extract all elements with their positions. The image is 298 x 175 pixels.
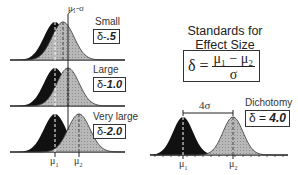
- delta-value: 4.0: [269, 111, 286, 125]
- four-sigma-label: 4σ: [199, 99, 210, 111]
- formula-denominator: σ: [230, 67, 238, 82]
- delta-value: 2.0: [107, 125, 122, 137]
- formula-fraction: μ₁ − μ₂ σ: [212, 51, 256, 82]
- right-mu1-label: μ1: [179, 158, 187, 171]
- dichotomy-delta: δ = 4.0: [245, 110, 290, 127]
- dichotomy-label: Dichotomy: [245, 97, 292, 108]
- left-mu1-label: μ1: [50, 155, 58, 168]
- panel-verylarge-delta: δ-2.0: [93, 124, 126, 139]
- formula-numerator: μ₁ − μ₂: [212, 51, 256, 67]
- title-line-1: Standards for: [175, 24, 275, 38]
- delta-prefix: δ-: [97, 30, 107, 42]
- delta-value: .5: [107, 30, 116, 42]
- delta-prefix: δ-: [97, 78, 107, 90]
- left-mu2-label: μ2: [74, 155, 82, 168]
- formula-lhs: δ =: [188, 57, 209, 75]
- panel-large-label: Large: [93, 64, 119, 75]
- panel-small-label: Small: [95, 16, 120, 27]
- right-mu2-label: μ2: [229, 158, 237, 171]
- delta-value: 1.0: [107, 78, 122, 90]
- panel-small-delta: δ-.5: [93, 29, 120, 44]
- diagram-title: Standards for Effect Size: [175, 24, 275, 52]
- delta-prefix: δ-: [97, 125, 107, 137]
- panel-verylarge-label: Very large: [93, 111, 138, 122]
- delta-prefix: δ =: [249, 111, 269, 125]
- panel-large-delta: δ-1.0: [93, 77, 126, 92]
- mu1-minus-sigma-annotation: μ₁-σ: [68, 3, 84, 13]
- effect-size-formula: δ = μ₁ − μ₂ σ: [183, 50, 260, 82]
